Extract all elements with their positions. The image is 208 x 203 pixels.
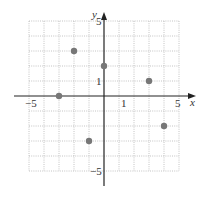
y-tick-label: 5 (96, 15, 102, 27)
data-point (161, 123, 167, 129)
data-point (101, 63, 107, 69)
y-tick-label: −5 (90, 165, 102, 177)
y-axis-arrow-icon (101, 12, 107, 20)
scatter-plot: x y −515 51−5 (0, 0, 208, 203)
data-point (56, 93, 62, 99)
x-axis-label: x (189, 96, 195, 108)
data-point (86, 138, 92, 144)
data-point (146, 78, 152, 84)
x-tick-label: 1 (121, 97, 127, 109)
y-tick-label: 1 (96, 75, 102, 87)
x-tick-labels: −515 (25, 97, 181, 109)
x-tick-label: 5 (175, 97, 181, 109)
x-tick-label: −5 (25, 97, 37, 109)
data-point (71, 48, 77, 54)
